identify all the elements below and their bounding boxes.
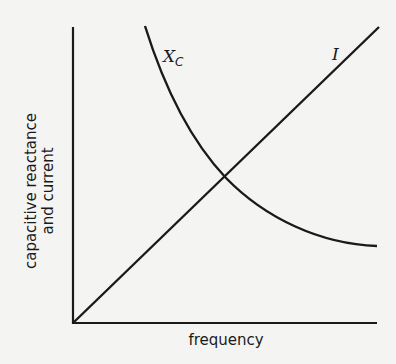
current-line <box>73 27 379 323</box>
chart: I XC frequency capacitive reactance and … <box>0 0 396 364</box>
y-axis-label-line1: capacitive reactance <box>22 113 40 269</box>
series-label-current: I <box>331 44 339 64</box>
series-label-reactance: XC <box>161 46 184 69</box>
x-axis-label: frequency <box>188 331 263 349</box>
y-axis-label-line2: and current <box>39 147 57 234</box>
